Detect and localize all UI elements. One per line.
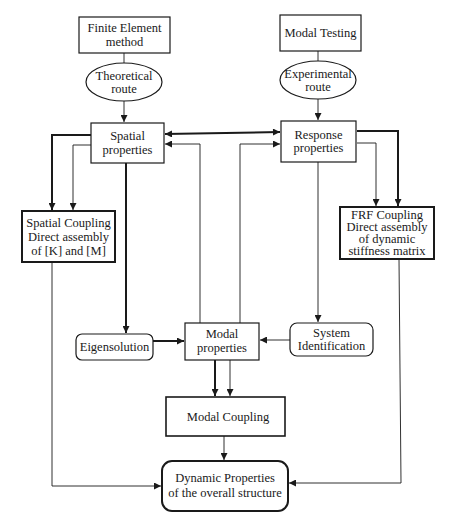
node-label: Theoretical: [96, 69, 153, 83]
node-label: Direct assembly: [28, 230, 110, 244]
node-label: method: [106, 35, 144, 49]
node-label: Finite Element: [88, 21, 162, 35]
node-label: of the overall structure: [168, 486, 282, 500]
node-spatial-properties: Spatial properties: [91, 123, 164, 163]
node-label: Experimental: [284, 67, 352, 81]
node-label: route: [111, 82, 137, 96]
flow-diagram: Finite Element method Theoretical route …: [0, 0, 451, 532]
node-theoretical-route: Theoretical route: [86, 63, 162, 101]
node-label: Modal: [206, 327, 239, 341]
node-label: System: [313, 326, 350, 340]
node-experimental-route: Experimental route: [280, 61, 356, 99]
node-label: Identification: [298, 339, 366, 353]
node-response-properties: Response properties: [281, 121, 356, 162]
node-finite-element-method: Finite Element method: [79, 17, 170, 53]
node-label: properties: [197, 341, 247, 355]
node-label: Spatial: [110, 129, 145, 143]
node-label: properties: [103, 143, 153, 157]
node-modal-properties: Modal properties: [185, 323, 259, 360]
node-system-identification: System Identification: [290, 323, 373, 356]
node-label: Eigensolution: [80, 340, 150, 354]
node-label: Response: [295, 128, 343, 142]
node-label: stiffness matrix: [348, 244, 426, 258]
node-label: Dynamic Properties: [175, 471, 275, 485]
edge-spatial-spatialcoupling-thin: [73, 145, 91, 210]
node-label: of [K] and [M]: [31, 244, 106, 258]
node-eigensolution: Eigensolution: [76, 334, 153, 360]
node-label: Modal Coupling: [187, 410, 270, 424]
node-label: Modal Testing: [284, 26, 357, 40]
node-modal-testing: Modal Testing: [280, 15, 361, 51]
edge-modal-spatial: [165, 144, 200, 323]
node-label: properties: [294, 141, 344, 155]
node-spatial-coupling: Spatial Coupling Direct assembly of [K] …: [22, 211, 115, 262]
edge-frfcoupling-dynamic: [289, 259, 401, 483]
edge-response-frfcoupling-thick: [357, 131, 398, 206]
edge-spatialcoupling-dynamic: [52, 262, 161, 486]
edge-spatial-spatialcoupling-thick: [52, 135, 91, 210]
edge-modal-response: [240, 144, 280, 323]
edge-response-frfcoupling-thin: [357, 143, 376, 206]
node-dynamic-properties: Dynamic Properties of the overall struct…: [162, 461, 288, 511]
node-label: Spatial Coupling: [26, 216, 111, 230]
node-frf-coupling: FRF Coupling Direct assembly of dynamic …: [340, 207, 434, 259]
node-modal-coupling: Modal Coupling: [166, 397, 285, 436]
node-label: route: [305, 80, 331, 94]
edge-spatial-response: [165, 132, 280, 134]
